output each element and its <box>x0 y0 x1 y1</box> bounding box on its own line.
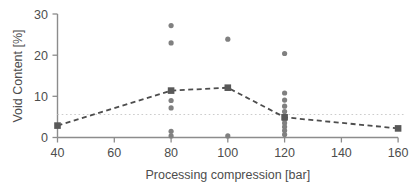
y-tick-label-0: 0 <box>41 131 48 145</box>
y-axis-ticks <box>53 14 58 138</box>
y-tick-label-10: 10 <box>34 90 48 104</box>
data-point <box>169 23 174 28</box>
y-tick-label-20: 20 <box>34 49 48 63</box>
x-axis-title: Processing compression [bar] <box>145 168 310 182</box>
data-point <box>225 133 230 138</box>
scatter-points-group <box>169 23 288 138</box>
x-tick-label-40: 40 <box>51 146 65 160</box>
data-point <box>282 109 287 114</box>
chart-container: 0 10 20 30 40 60 80 100 120 140 160 Proc… <box>0 0 413 190</box>
mean-marker <box>54 122 61 129</box>
data-point <box>282 104 287 109</box>
mean-marker <box>395 125 402 132</box>
data-point <box>169 40 174 45</box>
void-content-scatter-chart: 0 10 20 30 40 60 80 100 120 140 160 Proc… <box>0 0 413 190</box>
y-tick-label-30: 30 <box>34 8 48 22</box>
mean-markers-group <box>54 84 401 131</box>
y-axis-title: Void Content [%] <box>11 29 25 122</box>
data-point <box>169 133 174 138</box>
mean-marker <box>281 114 288 121</box>
data-point <box>169 98 174 103</box>
x-tick-label-160: 160 <box>388 146 409 160</box>
x-tick-label-60: 60 <box>107 146 121 160</box>
axes-group <box>58 14 399 138</box>
data-point <box>169 105 174 110</box>
data-point <box>282 51 287 56</box>
x-axis-tick-labels: 40 60 80 100 120 140 160 <box>51 146 409 160</box>
x-tick-label-100: 100 <box>217 146 238 160</box>
data-point <box>282 132 287 137</box>
mean-marker <box>168 87 175 94</box>
data-point <box>225 37 230 42</box>
data-point <box>282 90 287 95</box>
data-point <box>169 129 174 134</box>
mean-marker <box>225 84 232 91</box>
x-tick-label-120: 120 <box>274 146 295 160</box>
x-tick-label-80: 80 <box>164 146 178 160</box>
x-tick-label-140: 140 <box>331 146 352 160</box>
mean-trend-line <box>58 88 399 129</box>
data-point <box>282 98 287 103</box>
y-axis-tick-labels: 0 10 20 30 <box>34 8 48 146</box>
